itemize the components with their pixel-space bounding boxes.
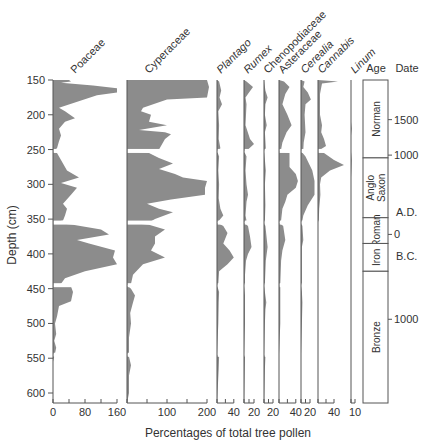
age-column-header: Age	[366, 62, 386, 74]
y-tick-label: 300	[27, 178, 45, 190]
age-zone-label: Saxon	[376, 174, 387, 202]
sample-gap	[245, 353, 257, 357]
x-axis-label: Percentages of total tree pollen	[145, 426, 311, 440]
x-tick-label: 40	[228, 406, 240, 418]
x-tick-label: 40	[290, 406, 302, 418]
y-tick-label: 550	[27, 352, 45, 364]
date-tick-label: 0	[394, 228, 400, 240]
sample-gap	[280, 353, 301, 357]
sample-gap	[302, 353, 318, 357]
sample-gap	[352, 221, 356, 225]
sample-gap	[245, 149, 257, 153]
date-column-header: Date	[395, 62, 418, 74]
y-tick-label: 500	[27, 317, 45, 329]
age-zone-label: Bronze	[371, 321, 382, 353]
date-tick-label: A.D.	[396, 206, 417, 218]
sample-gap	[218, 221, 237, 225]
sample-gap	[319, 283, 347, 287]
x-tick-label: 10	[349, 406, 361, 418]
sample-gap	[280, 221, 301, 225]
sample-gap	[265, 221, 271, 225]
sample-gap	[54, 283, 120, 287]
sample-gap	[302, 283, 318, 287]
sample-gap	[245, 221, 257, 225]
sample-gap	[265, 353, 271, 357]
depth-axis: 150200250300350400450500550600	[27, 74, 53, 399]
x-tick-label: 100	[158, 406, 176, 418]
y-tick-label: 350	[27, 213, 45, 225]
sample-gap	[352, 353, 356, 357]
age-zone-label: Iron	[371, 249, 382, 266]
y-tick-label: 200	[27, 109, 45, 121]
y-tick-label: 400	[27, 248, 45, 260]
date-tick-label: B.C.	[396, 250, 417, 262]
sample-gap	[128, 149, 212, 153]
age-zone-label: Anglo	[365, 175, 376, 201]
sample-gap	[218, 283, 237, 287]
x-tick-label: 160	[108, 406, 126, 418]
x-tick-label: 0	[50, 406, 56, 418]
date-tick-label: 1500	[394, 114, 418, 126]
sample-gap	[352, 283, 356, 287]
age-column: NormanAngloSaxonRomanIronBronze15001000A…	[363, 80, 418, 403]
taxon-header-cyperaceae: Cyperaceae	[142, 25, 192, 75]
sample-gap	[245, 283, 257, 287]
sample-gap	[352, 149, 356, 153]
date-tick-label: 1000	[394, 313, 418, 325]
sample-gap	[218, 149, 237, 153]
y-tick-label: 150	[27, 74, 45, 86]
sample-gap	[128, 221, 212, 225]
sample-gap	[302, 149, 318, 153]
age-zone-label: Norman	[371, 101, 382, 137]
y-tick-label: 600	[27, 387, 45, 399]
y-axis-label: Depth (cm)	[5, 205, 19, 264]
sample-gap	[319, 221, 347, 225]
pollen-diagram-svg: 080160Poaceae100200Cyperaceae40Plantago2…	[0, 0, 425, 446]
x-tick-label: 20	[304, 406, 316, 418]
date-tick-label: 1000	[394, 149, 418, 161]
x-tick-label: 40	[328, 406, 340, 418]
panel-cannabis: 40Cannabis	[315, 34, 357, 418]
age-zone-label: Roman	[371, 214, 382, 246]
sample-gap	[54, 353, 120, 357]
x-tick-label: 20	[248, 406, 260, 418]
y-tick-label: 450	[27, 283, 45, 295]
sample-gap	[280, 149, 301, 153]
sample-gap	[265, 149, 271, 153]
x-tick-label: 200	[198, 406, 216, 418]
sample-gap	[54, 221, 120, 225]
panel-rumex: 20Rumex	[241, 42, 274, 418]
panel-cerealia: 20Cerealia	[298, 38, 335, 418]
panel-cyperaceae: 100200Cyperaceae	[127, 25, 216, 418]
taxon-header-poaceae: Poaceae	[68, 36, 107, 75]
sample-gap	[218, 353, 237, 357]
sample-gap	[319, 149, 347, 153]
sample-gap	[302, 221, 318, 225]
taxon-panels: 080160Poaceae100200Cyperaceae40Plantago2…	[50, 8, 378, 418]
y-tick-label: 250	[27, 144, 45, 156]
sample-gap	[128, 353, 212, 357]
panel-poaceae: 080160Poaceae	[50, 36, 126, 418]
sample-gap	[54, 149, 120, 153]
pollen-diagram: 080160Poaceae100200Cyperaceae40Plantago2…	[0, 0, 425, 446]
sample-gap	[128, 283, 212, 287]
x-tick-label: 20	[267, 406, 279, 418]
x-tick-label: 80	[79, 406, 91, 418]
sample-gap	[280, 283, 301, 287]
sample-gap	[319, 353, 347, 357]
sample-gap	[265, 283, 271, 287]
